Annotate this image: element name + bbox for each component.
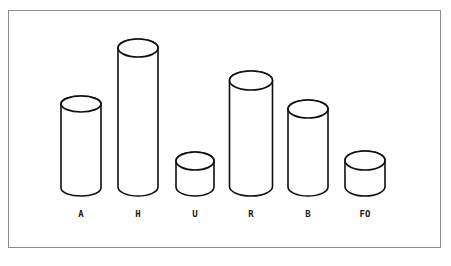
category-label-r: R: [248, 209, 254, 219]
category-axis-labels: AHURBFO: [0, 0, 451, 266]
category-label-h: H: [135, 209, 141, 219]
category-label-b: B: [305, 209, 311, 219]
category-label-u: U: [192, 209, 198, 219]
category-label-fo: FO: [359, 209, 370, 219]
figure-root: AHURBFO: [0, 0, 451, 266]
category-label-a: A: [78, 209, 84, 219]
